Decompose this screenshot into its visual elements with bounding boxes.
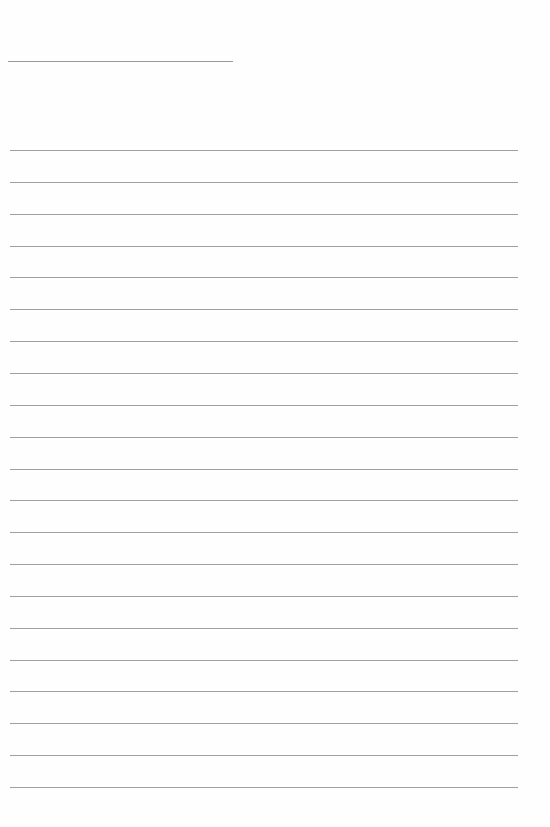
- ruled-line: [10, 277, 518, 278]
- ruled-line: [10, 150, 518, 151]
- ruled-line: [10, 214, 518, 215]
- ruled-line: [10, 787, 518, 788]
- ruled-line: [10, 660, 518, 661]
- ruled-line: [10, 532, 518, 533]
- ruled-line: [10, 437, 518, 438]
- lined-paper-page: [0, 0, 550, 827]
- ruled-line: [10, 691, 518, 692]
- ruled-line: [10, 182, 518, 183]
- ruled-line: [10, 309, 518, 310]
- ruled-line: [10, 755, 518, 756]
- ruled-line: [10, 500, 518, 501]
- ruled-line: [10, 596, 518, 597]
- ruled-line: [10, 405, 518, 406]
- ruled-line: [10, 246, 518, 247]
- ruled-line: [10, 723, 518, 724]
- ruled-line: [10, 469, 518, 470]
- title-underline: [8, 61, 233, 62]
- ruled-line: [10, 341, 518, 342]
- ruled-line: [10, 373, 518, 374]
- ruled-line: [10, 564, 518, 565]
- ruled-line: [10, 628, 518, 629]
